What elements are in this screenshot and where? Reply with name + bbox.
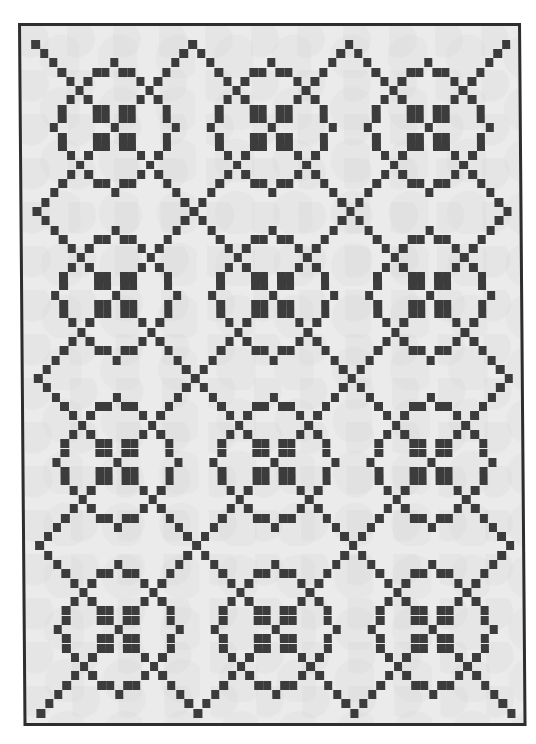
quilt-square [485, 123, 493, 132]
quilt-square [228, 653, 236, 662]
quilt-square [190, 207, 198, 216]
quilt-square [226, 411, 234, 420]
quilt-square [285, 133, 293, 142]
quilt-square [455, 671, 463, 680]
quilt-square [436, 467, 444, 476]
quilt-square [84, 151, 92, 160]
quilt-square [138, 337, 146, 346]
quilt-square [437, 681, 445, 690]
quilt-square [452, 337, 460, 346]
quilt-square [166, 514, 174, 523]
quilt-square [339, 383, 347, 392]
quilt-square [251, 235, 259, 244]
quilt-square [216, 281, 224, 290]
quilt-square [254, 616, 262, 625]
quilt-square [252, 449, 260, 458]
quilt-square [280, 644, 288, 653]
quilt-square [444, 467, 452, 476]
quilt-square [411, 606, 419, 615]
quilt-square [136, 95, 144, 104]
quilt-square [250, 179, 258, 188]
quilt-square [363, 58, 371, 67]
quilt-square [60, 346, 68, 355]
quilt-square [156, 318, 164, 327]
quilt-square [120, 272, 128, 281]
quilt-square [197, 49, 205, 58]
quilt-square [164, 235, 172, 244]
quilt-square [147, 328, 155, 337]
quilt-square [437, 644, 445, 653]
quilt-square [331, 393, 339, 402]
quilt-square [94, 272, 102, 281]
quilt-square [410, 467, 418, 476]
quilt-square [129, 309, 137, 318]
quilt-square [140, 597, 148, 606]
quilt-square [373, 300, 381, 309]
quilt-square [462, 421, 470, 430]
quilt-square [437, 634, 445, 643]
quilt-square [104, 439, 112, 448]
quilt-square [410, 476, 418, 485]
quilt-square [372, 179, 380, 188]
quilt-square [188, 40, 196, 49]
quilt-square [122, 514, 130, 523]
quilt-square [227, 504, 235, 513]
quilt-square [145, 86, 153, 95]
quilt-square [106, 634, 114, 643]
quilt-square [446, 644, 454, 653]
quilt-square [446, 634, 454, 643]
quilt-square [34, 374, 42, 383]
quilt-square [496, 383, 504, 392]
quilt-square [279, 476, 287, 485]
quilt-square [67, 170, 75, 179]
quilt-square [478, 300, 486, 309]
quilt-square [285, 114, 293, 123]
quilt-square [339, 365, 347, 374]
quilt-square [163, 114, 171, 123]
quilt-square [507, 709, 515, 718]
quilt-square [323, 569, 331, 578]
quilt-square [418, 476, 426, 485]
quilt-square [434, 272, 442, 281]
quilt-square [62, 681, 70, 690]
quilt-square [128, 142, 136, 151]
quilt-square [332, 625, 340, 634]
quilt-square [254, 644, 262, 653]
quilt-square [52, 458, 60, 467]
quilt-square [268, 226, 276, 235]
quilt-square [129, 300, 137, 309]
quilt-square [461, 328, 469, 337]
quilt-square [355, 198, 363, 207]
quilt-square [480, 514, 488, 523]
quilt-square [358, 532, 366, 541]
quilt-square [329, 226, 337, 235]
quilt-square [87, 430, 95, 439]
quilt-square [436, 449, 444, 458]
quilt-square [253, 467, 261, 476]
quilt-square [78, 495, 86, 504]
quilt-square [260, 281, 268, 290]
quilt-square [446, 616, 454, 625]
quilt-square [478, 281, 486, 290]
quilt-square [468, 151, 476, 160]
quilt-square [69, 430, 77, 439]
quilt-square [242, 170, 250, 179]
quilt-square [409, 439, 417, 448]
quilt-square [173, 356, 181, 365]
quilt-square [480, 606, 488, 615]
quilt-square [418, 402, 426, 411]
quilt-square [97, 644, 105, 653]
quilt-square [68, 318, 76, 327]
quilt-square [114, 560, 122, 569]
quilt-square [215, 133, 223, 142]
quilt-square [288, 514, 296, 523]
quilt-square [280, 606, 288, 615]
quilt-square [130, 449, 138, 458]
quilt-square [416, 142, 424, 151]
quilt-square [262, 606, 270, 615]
quilt-square [444, 346, 452, 355]
quilt-square [146, 161, 154, 170]
quilt-square [106, 644, 114, 653]
quilt-square [192, 541, 200, 550]
quilt-square [411, 616, 419, 625]
